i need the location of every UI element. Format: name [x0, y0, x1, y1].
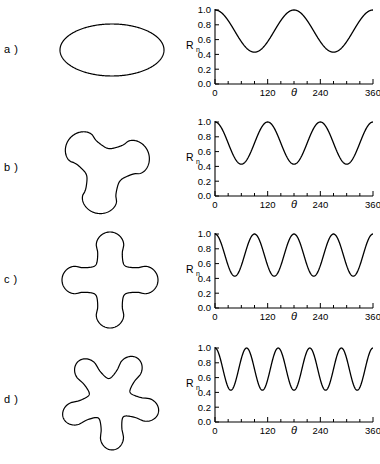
- x-tick-label: 240: [312, 311, 328, 322]
- x-tick-label: 360: [365, 199, 380, 210]
- x-tick-label: 360: [365, 87, 380, 98]
- y-tick-label: 0.2: [198, 288, 211, 299]
- y-tick-label: 0.6: [198, 372, 211, 383]
- x-tick-label: 360: [365, 425, 380, 436]
- y-tick-label: 0.8: [198, 243, 211, 254]
- y-tick-label: 0.2: [198, 64, 211, 75]
- chart-panel-d: 0.00.20.40.60.81.00120240360Rnθ: [185, 338, 380, 454]
- x-axis-title: θ: [291, 424, 297, 436]
- data-curve: [215, 10, 373, 52]
- x-tick-label: 0: [212, 199, 217, 210]
- x-tick-label: 240: [312, 425, 328, 436]
- figure-root: a )0.00.20.40.60.81.00120240360Rnθb )0.0…: [0, 0, 380, 464]
- shape-ellipse-2-lobe: [30, 0, 190, 116]
- y-tick-label: 1.0: [198, 116, 211, 127]
- chart-panel-c: 0.00.20.40.60.81.00120240360Rnθ: [185, 224, 380, 340]
- panel-row-c: c )0.00.20.40.60.81.00120240360Rnθ: [0, 224, 380, 336]
- svg-text:n: n: [196, 158, 200, 165]
- y-tick-label: 0.8: [198, 357, 211, 368]
- svg-text:n: n: [196, 270, 200, 277]
- y-tick-label: 0.6: [198, 146, 211, 157]
- y-tick-label: 0.2: [198, 402, 211, 413]
- shape-trefoil-3-lobe: [30, 112, 190, 228]
- panel-row-a: a )0.00.20.40.60.81.00120240360Rnθ: [0, 0, 380, 110]
- shape-star-5-lobe: [30, 338, 190, 454]
- y-tick-label: 0.0: [198, 190, 211, 201]
- x-tick-label: 0: [212, 87, 217, 98]
- x-tick-label: 0: [212, 425, 217, 436]
- y-tick-label: 1.0: [198, 4, 211, 15]
- x-tick-label: 120: [260, 199, 276, 210]
- y-tick-label: 1.0: [198, 228, 211, 239]
- x-axis-title: θ: [291, 86, 297, 98]
- y-tick-label: 0.6: [198, 34, 211, 45]
- panel-label-c: c ): [4, 273, 18, 285]
- x-tick-label: 240: [312, 87, 328, 98]
- svg-text:R: R: [186, 263, 194, 275]
- chart-panel-b: 0.00.20.40.60.81.00120240360Rnθ: [185, 112, 380, 228]
- y-tick-label: 0.8: [198, 131, 211, 142]
- svg-text:n: n: [196, 384, 200, 391]
- x-axis-title: θ: [291, 198, 297, 210]
- y-tick-label: 0.8: [198, 19, 211, 30]
- x-tick-label: 120: [260, 87, 276, 98]
- x-axis-title: θ: [291, 310, 297, 322]
- panel-row-b: b )0.00.20.40.60.81.00120240360Rnθ: [0, 112, 380, 224]
- y-tick-label: 1.0: [198, 342, 211, 353]
- y-tick-label: 0.0: [198, 416, 211, 427]
- y-tick-label: 0.0: [198, 78, 211, 89]
- y-tick-label: 0.6: [198, 258, 211, 269]
- y-tick-label: 0.2: [198, 176, 211, 187]
- x-tick-label: 360: [365, 311, 380, 322]
- y-tick-label: 0.0: [198, 302, 211, 313]
- svg-text:n: n: [196, 46, 200, 53]
- data-curve: [215, 122, 373, 164]
- panel-label-b: b ): [4, 161, 18, 173]
- x-tick-label: 240: [312, 199, 328, 210]
- data-curve: [215, 234, 373, 276]
- panel-label-d: d ): [4, 393, 18, 405]
- svg-text:R: R: [186, 377, 194, 389]
- x-tick-label: 120: [260, 311, 276, 322]
- panel-row-d: d )0.00.20.40.60.81.00120240360Rnθ: [0, 338, 380, 464]
- x-tick-label: 0: [212, 311, 217, 322]
- svg-text:R: R: [186, 39, 194, 51]
- chart-panel-a: 0.00.20.40.60.81.00120240360Rnθ: [185, 0, 380, 116]
- svg-text:R: R: [186, 151, 194, 163]
- panel-label-a: a ): [4, 43, 18, 55]
- shape-cross-4-lobe: [30, 224, 190, 340]
- x-tick-label: 120: [260, 425, 276, 436]
- data-curve: [215, 348, 373, 390]
